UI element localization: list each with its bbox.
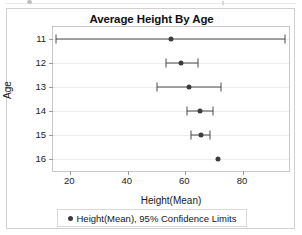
plot-area [52, 26, 290, 172]
artifact-blip-right [222, 1, 224, 5]
y-tick-label: 12 [24, 57, 46, 68]
mean-marker [169, 37, 174, 42]
mean-marker [216, 157, 221, 162]
confidence-interval-cap-upper [212, 107, 213, 116]
legend-label: Height(Mean), 95% Confidence Limits [77, 213, 237, 224]
confidence-interval-cap-lower [56, 35, 57, 44]
confidence-interval-cap-upper [221, 83, 222, 92]
artifact-blip-left [27, 0, 32, 4]
y-tick-label: 11 [24, 33, 46, 44]
confidence-interval-cap-lower [165, 59, 166, 68]
confidence-interval-cap-upper [198, 59, 199, 68]
x-tick-label: 20 [64, 175, 75, 186]
legend-marker-icon [68, 216, 73, 221]
x-tick-label: 60 [179, 175, 190, 186]
gridline-y [53, 159, 289, 160]
y-tick-mark [49, 87, 53, 88]
mean-marker [199, 133, 204, 138]
y-tick-label: 14 [24, 105, 46, 116]
confidence-interval-cap-upper [209, 131, 210, 140]
y-tick-mark [49, 159, 53, 160]
y-tick-label: 15 [24, 129, 46, 140]
y-tick-mark [49, 39, 53, 40]
confidence-interval-cap-upper [284, 35, 285, 44]
mean-marker [186, 85, 191, 90]
x-axis-title: Height(Mean) [52, 195, 290, 206]
gridline-y [53, 111, 289, 112]
confidence-interval-cap-lower [156, 83, 157, 92]
x-tick-label: 40 [122, 175, 133, 186]
mean-marker [179, 61, 184, 66]
y-tick-mark [49, 135, 53, 136]
y-tick-label: 16 [24, 153, 46, 164]
x-tick-label: 80 [237, 175, 248, 186]
confidence-interval-cap-lower [191, 131, 192, 140]
y-axis-title: Age [2, 81, 13, 99]
y-tick-label: 13 [24, 81, 46, 92]
artifact-streak [6, 3, 296, 4]
gridline-y [53, 135, 289, 136]
y-tick-mark [49, 63, 53, 64]
confidence-interval-cap-lower [186, 107, 187, 116]
mean-marker [197, 109, 202, 114]
clipped-header-artifact [0, 0, 302, 7]
chart-title: Average Height By Age [7, 13, 296, 25]
y-tick-mark [49, 111, 53, 112]
chart-legend: Height(Mean), 95% Confidence Limits [57, 209, 247, 227]
